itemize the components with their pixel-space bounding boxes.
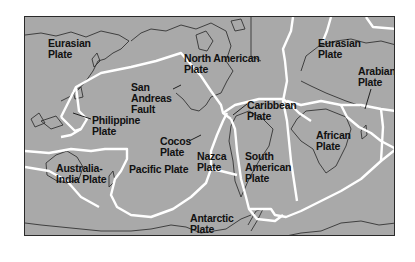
label-san-andreas-fault: San Andreas Fault bbox=[131, 82, 172, 115]
label-nazca-plate: Nazca Plate bbox=[197, 151, 226, 173]
label-caribbean-plate: Caribbean Plate bbox=[247, 100, 297, 122]
label-philippine-plate: Philippine Plate bbox=[92, 115, 140, 137]
label-south-american-plate: South American Plate bbox=[245, 151, 291, 184]
label-eurasian-plate-west: Eurasian Plate bbox=[48, 38, 91, 60]
map-frame: Eurasian Plate North American Plate Eura… bbox=[24, 16, 395, 236]
label-african-plate: African Plate bbox=[316, 130, 351, 152]
label-eurasian-plate-east: Eurasian Plate bbox=[318, 38, 361, 60]
label-pacific-plate: Pacific Plate bbox=[129, 164, 188, 175]
label-north-american-plate: North American Plate bbox=[184, 53, 260, 75]
label-australia-india-plate: Australia- India Plate bbox=[56, 163, 106, 185]
label-cocos-plate: Cocos Plate bbox=[160, 136, 191, 158]
label-arabian-plate: Arabian Plate bbox=[358, 66, 395, 88]
label-antarctic-plate: Antarctic Plate bbox=[190, 213, 234, 235]
